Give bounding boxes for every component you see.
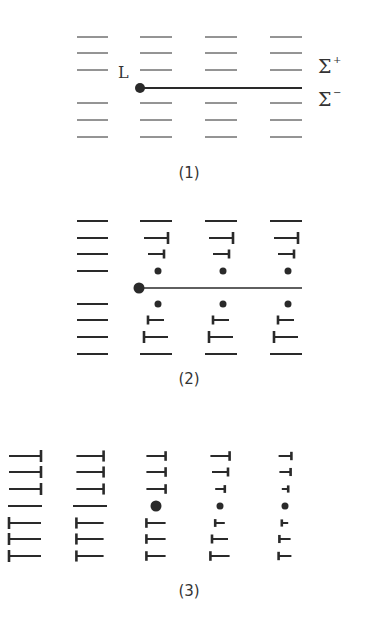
edge-dislocation-tee [146, 451, 165, 461]
dislocation-diagram: L Σ + Σ − (1) (2) (3) [0, 0, 373, 623]
edge-dislocation-tee [144, 232, 168, 244]
edge-dislocation-tee [9, 450, 41, 462]
point-defect [155, 301, 162, 308]
edge-dislocation-tee [274, 331, 298, 343]
sigma-minus-label: Σ − [318, 87, 341, 110]
svg-text:−: − [333, 87, 341, 98]
dislocation-label-L: L [118, 63, 129, 82]
edge-dislocation-tee [76, 517, 103, 528]
edge-dislocation-tee [144, 331, 168, 343]
edge-dislocation-tee [215, 485, 225, 493]
edge-dislocation-tee [76, 533, 103, 544]
edge-dislocation-tee [210, 451, 229, 461]
edge-dislocation-tee [76, 550, 103, 561]
point-defect [285, 301, 292, 308]
edge-dislocation-tee [274, 232, 298, 244]
sigma-plus-label: Σ + [318, 54, 341, 77]
svg-text:+: + [333, 54, 341, 65]
edge-dislocation-tee [279, 535, 290, 543]
edge-dislocation-tee [212, 535, 228, 544]
edge-dislocation-tee [209, 232, 233, 244]
edge-dislocation-tee [9, 550, 41, 562]
edge-dislocation-tee [9, 483, 41, 495]
edge-dislocation-tee [9, 533, 41, 545]
edge-dislocation-tee [282, 485, 288, 492]
edge-dislocation-tee [146, 551, 165, 561]
edge-dislocation-tee [76, 450, 103, 461]
edge-dislocation-tee [279, 452, 292, 460]
point-defect [220, 301, 227, 308]
edge-dislocation-tee [9, 466, 41, 478]
edge-dislocation-tee [210, 551, 229, 561]
dislocation-point-L [135, 83, 145, 93]
edge-dislocation-tee [282, 519, 288, 526]
edge-dislocation-tee [279, 552, 292, 560]
edge-dislocation-tee [209, 331, 233, 343]
edge-dislocation-tee [146, 467, 165, 477]
edge-dislocation-tee [148, 250, 164, 259]
edge-dislocation-tee [213, 316, 229, 325]
edge-dislocation-tee [213, 250, 229, 259]
dislocation-point [151, 501, 162, 512]
panel-1 [77, 37, 302, 137]
edge-dislocation-tee [9, 517, 41, 529]
point-defect [155, 268, 162, 275]
svg-text:Σ: Σ [318, 88, 331, 110]
edge-dislocation-tee [215, 519, 225, 527]
point-defect [282, 503, 289, 510]
edge-dislocation-tee [278, 316, 294, 325]
dislocation-point-L [134, 283, 145, 294]
panel-label-3: (3) [178, 582, 199, 600]
edge-dislocation-tee [278, 250, 294, 259]
edge-dislocation-tee [279, 468, 290, 476]
point-defect [217, 503, 224, 510]
panel-label-2: (2) [178, 370, 199, 388]
point-defect [220, 268, 227, 275]
edge-dislocation-tee [148, 316, 164, 325]
edge-dislocation-tee [146, 518, 165, 528]
point-defect [285, 268, 292, 275]
panel-3 [8, 450, 291, 562]
edge-dislocation-tee [146, 484, 165, 494]
edge-dislocation-tee [212, 468, 228, 477]
edge-dislocation-tee [76, 483, 103, 494]
edge-dislocation-tee [146, 534, 165, 544]
edge-dislocation-tee [76, 466, 103, 477]
panel-label-1: (1) [178, 164, 199, 182]
panel-2 [77, 221, 302, 354]
svg-text:Σ: Σ [318, 55, 331, 77]
